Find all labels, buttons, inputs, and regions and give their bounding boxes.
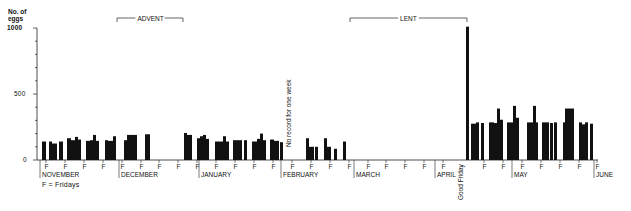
friday-label: F [83,163,87,170]
bar [223,136,226,160]
bar [315,147,318,160]
friday-label: F [177,163,181,170]
bar [124,140,127,160]
y-tick-500: 500 [14,90,25,97]
bar [233,140,242,160]
bar [579,122,582,160]
friday-label: F [310,163,314,170]
bar [59,142,63,160]
bar [466,27,469,160]
y-tick-0: 0 [23,156,27,163]
bar [585,122,588,160]
bar [527,122,534,160]
fridays-legend-note: F = Fridays [42,181,79,188]
bar [108,141,113,160]
friday-label: F [578,163,582,170]
friday-label: F [404,163,408,170]
friday-label: F [521,163,525,170]
bar [113,136,116,160]
bar [203,135,206,160]
friday-label: F [329,163,333,170]
bar [500,120,503,160]
friday-label: F [348,163,352,170]
friday-label: F [158,163,162,170]
bar [263,140,266,160]
bar [52,144,57,161]
bar [78,140,81,160]
friday-label: F [596,163,600,170]
bar [257,139,260,160]
y-axis-label-line2: eggs [8,15,26,22]
bar [481,123,484,160]
bar [565,109,574,160]
friday-label: F [502,163,506,170]
bar [105,140,108,160]
bar [334,149,337,160]
bar [145,134,150,160]
bar [533,106,536,160]
friday-label: F [102,163,106,170]
month-label: MARCH [356,171,380,178]
y-axis-label-line1: No. of [8,8,26,15]
bar [280,142,283,160]
friday-label: F [272,163,276,170]
bar [309,147,314,160]
bar [497,109,500,160]
bar [270,140,274,160]
friday-label: F [559,163,563,170]
friday-label: F [234,163,238,170]
y-tick-1000: 1000 [7,24,22,31]
y-axis-label: No. of eggs [8,8,26,22]
bar [127,135,137,160]
month-label: DECEMBER [121,171,158,178]
month-label: MAY [514,171,528,178]
annotation: Good Friday [457,163,465,200]
friday-label: F [215,163,219,170]
bar [93,135,96,160]
bar [226,142,229,160]
bar [187,135,192,160]
friday-label: F [291,163,295,170]
bar [489,122,494,160]
friday-label: F [385,163,389,170]
bar [582,124,585,160]
month-label: APRIL [437,171,456,178]
bar [49,142,52,160]
friday-label: F [140,163,144,170]
bar [260,134,263,160]
friday-label: F [483,163,487,170]
bar [86,141,90,160]
bar [90,140,93,160]
month-label: JUNE [596,171,614,178]
friday-label: F [45,163,49,170]
bar [215,142,223,160]
period-label: ADVENT [137,15,163,22]
bar [471,124,476,160]
bar [184,133,187,160]
bar [197,138,200,160]
period-label: LENT [400,15,417,22]
bar [563,122,565,160]
bar [343,142,346,160]
bar [244,140,247,160]
bar [550,123,553,160]
bar [42,142,46,160]
month-label: FEBRUARY [283,171,319,178]
bar [306,138,309,160]
friday-label: F [540,163,544,170]
month-label: JANUARY [201,171,232,178]
bar [494,123,497,160]
bar [590,124,593,160]
friday-label: F [367,163,371,170]
bar [554,122,557,160]
bar [67,138,71,160]
bar [536,122,538,160]
bar [476,122,479,160]
bar [75,137,78,160]
bar [252,142,257,160]
friday-label: F [253,163,257,170]
bar [542,122,549,160]
annotation: No record for one week [285,79,292,147]
bar [71,140,75,160]
bar [516,118,519,160]
